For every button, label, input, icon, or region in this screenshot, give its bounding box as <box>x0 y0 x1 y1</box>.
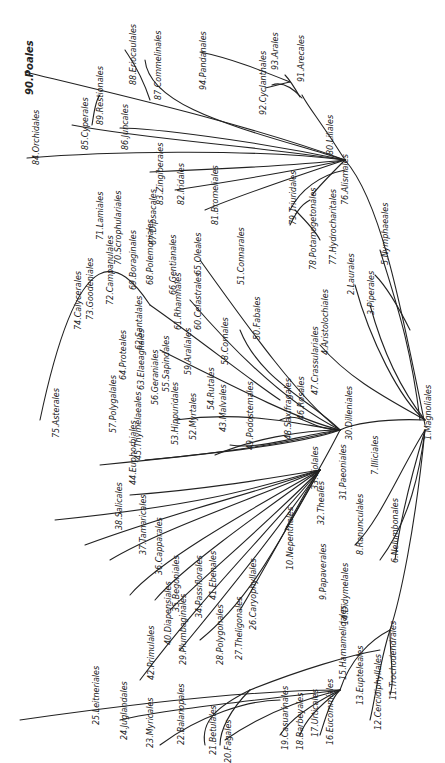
taxon-label-12: 12.Cercidiphyllales <box>375 654 383 730</box>
taxon-label-9: 9.Papaverales <box>320 544 328 601</box>
taxon-label-42: 42.Primulales <box>148 626 156 680</box>
taxon-label-83: 83.Zingiberales <box>157 143 165 205</box>
taxon-label-1: 1.Magnoliales <box>425 385 433 440</box>
taxon-label-13: 13.Eupteleales <box>357 646 365 705</box>
taxon-label-79: 79.Triuridales <box>290 171 298 225</box>
taxon-label-72: 72.Campanulales <box>107 235 115 305</box>
taxon-label-90: 90.Poales <box>25 40 35 95</box>
taxon-label-34: 34.Passiflorales <box>196 555 204 618</box>
taxon-label-58: 58.Cornales <box>222 317 230 365</box>
taxon-label-2: 2.Laurales <box>348 253 356 295</box>
taxon-label-11: 11.Trochodendrales <box>390 621 398 700</box>
taxon-label-85: 85.Cyperales <box>82 97 90 150</box>
taxon-label-30: 30.Dilleniales <box>346 386 354 440</box>
taxon-label-48: 48.Saxifragales <box>285 378 293 440</box>
taxon-label-23: 23.Myricales <box>147 698 155 748</box>
taxon-label-64: 64.Proteales <box>120 330 128 380</box>
taxon-label-54: 54.Rutales <box>208 367 216 410</box>
taxon-label-5: 5.Nymphaeales <box>382 203 390 265</box>
taxon-label-68: 68.Polemoniales <box>147 219 155 285</box>
taxon-label-19: 19.Casuarinales <box>282 686 290 750</box>
taxon-label-82: 82.Iridales <box>178 163 186 205</box>
taxon-label-91: 91.Arecales <box>298 35 306 82</box>
taxon-label-22: 22.Balanopales <box>178 684 186 746</box>
taxon-label-88: 88.Eriocaulales <box>130 24 138 85</box>
taxon-label-15: 15.Hamamelidales <box>340 605 348 680</box>
taxon-label-26: 26.Caryophyllales <box>250 558 258 630</box>
taxon-label-6: 6.Nelumbonales <box>392 498 400 563</box>
taxon-label-65: 65.Oleales <box>195 233 203 275</box>
taxon-label-66: 66.Gentianales <box>170 235 178 295</box>
taxon-label-36: 36.Capparales <box>156 517 164 575</box>
taxon-label-80: 80.Liliales <box>327 115 335 155</box>
taxon-label-43: 43.Malvales <box>220 384 228 432</box>
taxon-label-50: 50.Fabales <box>254 296 262 340</box>
taxon-label-41: 41.Ebenales <box>210 551 218 600</box>
taxon-label-31: 31.Paeoniales <box>340 444 348 500</box>
taxon-label-93: 93.Arales <box>272 32 280 70</box>
taxon-label-46: 46.Rosales <box>298 376 306 420</box>
taxon-label-89: 89.Restionales <box>97 66 105 125</box>
taxon-label-40: 40.Diapensiales <box>165 581 173 645</box>
taxon-label-84: 84.Orchidales <box>33 110 41 165</box>
taxon-label-38: 38.Salicales <box>116 482 124 530</box>
taxon-label-86: 86.Juncales <box>122 104 130 150</box>
taxon-label-7: 7.Illiciales <box>372 436 380 476</box>
taxon-label-75: 75.Asterales <box>53 388 61 438</box>
taxon-label-10: 10.Nepenthales <box>287 507 295 570</box>
taxon-label-25: 25.Leitneriales <box>93 666 101 725</box>
taxon-label-81: 81.Bromeliales <box>212 165 220 225</box>
taxon-label-28: 28.Polygonales <box>217 604 225 665</box>
taxon-label-63: 63.Elaeagnales <box>138 329 146 390</box>
taxon-label-4: 4.Aristolochiales <box>322 289 330 355</box>
taxon-label-16: 16.Eucommiales <box>327 679 335 745</box>
taxon-label-51: 51.Connarales <box>238 227 246 285</box>
taxon-label-8: 8.Ranunculales <box>357 494 365 555</box>
taxon-label-87: 87.Commelinales <box>155 31 163 100</box>
taxon-label-57: 57.Polygalales <box>110 375 118 433</box>
taxon-label-45: 45.Thymelaeales <box>135 392 143 460</box>
branch-liliales-arecales <box>302 95 345 160</box>
taxon-label-20: 20.Fagales <box>225 719 233 763</box>
taxon-label-18: 18.Barbeyales <box>297 693 305 750</box>
taxon-label-33: 33.Violales <box>312 446 320 490</box>
taxon-label-78: 78.Potamogetonales <box>310 188 318 270</box>
taxon-label-35: 35.Begoniales <box>173 555 181 612</box>
taxon-label-21: 21.Betulales <box>210 705 218 755</box>
taxon-label-37: 37.Tamaricales <box>140 495 148 556</box>
taxon-label-3: 3.Piperales <box>368 271 376 315</box>
branch-to-poales <box>25 72 345 160</box>
taxon-label-29: 29.Plumbaginales <box>180 594 188 665</box>
taxon-label-56: 56.Geraniales <box>152 349 160 405</box>
taxon-label-70: 70.Scrophulariales <box>115 191 123 265</box>
taxon-label-92: 92.Cyclanthales <box>260 51 268 115</box>
taxon-label-76: 76.Alismales <box>342 154 350 205</box>
taxon-label-73: 73.Goodeniales <box>87 258 95 320</box>
taxon-label-52: 52.Myrtales <box>190 393 198 440</box>
taxon-label-53: 53.Hippuridales <box>172 382 180 445</box>
taxon-label-17: 17.Urticales <box>312 689 320 737</box>
taxon-label-47: 47.Crassulariales <box>312 326 320 395</box>
taxon-label-94: 94.Pandanales <box>200 31 208 90</box>
taxon-label-74: 74.Calycerales <box>75 271 83 330</box>
taxon-label-59: 59.Araliales <box>185 328 193 375</box>
taxon-label-71: 71.Lamiales <box>97 192 105 240</box>
taxon-label-77: 77.Hydrocharitales <box>330 189 338 265</box>
taxon-label-55: 55.Sapindales <box>163 336 171 392</box>
taxon-label-69: 69.Boraginales <box>130 230 138 290</box>
taxon-label-24: 24.Juglandales <box>121 681 129 740</box>
taxon-label-60: 60.Celastrales <box>195 273 203 330</box>
taxon-label-49: 49.Podostemales <box>247 381 255 450</box>
taxon-label-27: 27.Theligonales <box>236 597 244 660</box>
